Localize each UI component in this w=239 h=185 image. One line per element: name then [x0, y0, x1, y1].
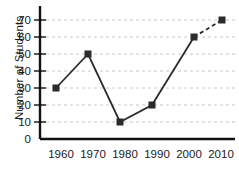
data-point-1990	[149, 102, 156, 109]
y-tick-label-50: 50	[18, 48, 31, 60]
plot-area: 70 60 50 40 30 20 10 0 1960 1970 1980 19…	[0, 0, 239, 185]
data-point-2000	[191, 34, 198, 41]
x-tick-label-2010: 2010	[208, 148, 234, 160]
data-point-2010	[219, 17, 226, 24]
data-point-1980	[117, 119, 124, 126]
x-tick-label-1980: 1980	[112, 148, 138, 160]
x-tick-labels: 1960 1970 1980 1990 2000 2010	[48, 148, 234, 160]
x-tick-label-2000: 2000	[176, 148, 202, 160]
y-tick-label-70: 70	[18, 14, 31, 26]
y-tick-labels: 70 60 50 40 30 20 10 0	[18, 14, 31, 145]
y-tick-label-10: 10	[18, 116, 31, 128]
y-axis	[34, 6, 46, 139]
x-tick-label-1970: 1970	[80, 148, 106, 160]
data-point-1960	[53, 85, 60, 92]
y-tick-label-60: 60	[18, 31, 31, 43]
gridlines	[40, 20, 235, 122]
series-dashed-segment	[194, 20, 222, 37]
y-tick-label-40: 40	[18, 65, 31, 77]
line-chart: Number of Students 70 60 50 40 30	[0, 0, 239, 185]
y-tick-label-30: 30	[18, 82, 31, 94]
series-solid-path	[56, 37, 194, 122]
y-tick-label-20: 20	[18, 99, 31, 111]
data-point-1970	[85, 51, 92, 58]
y-tick-label-0: 0	[25, 133, 31, 145]
x-tick-label-1960: 1960	[48, 148, 74, 160]
x-tick-label-1990: 1990	[144, 148, 170, 160]
